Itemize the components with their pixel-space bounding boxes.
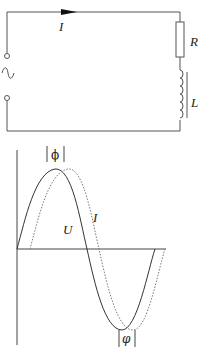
current-label: I: [58, 19, 64, 34]
phase-angle-top-label: ϕ: [51, 148, 59, 162]
current-arrow-icon: [61, 9, 77, 15]
top-wire: [7, 12, 180, 53]
phase-angle-bottom-label: φ: [122, 332, 131, 346]
inductor-label: L: [190, 95, 198, 110]
waveform-plot: [17, 146, 166, 347]
bottom-wire: [7, 101, 180, 131]
inductor-icon: [180, 70, 183, 118]
ac-source-icon: [2, 68, 14, 79]
current-wave-label: I: [92, 210, 98, 225]
terminal-bottom-icon: [5, 96, 10, 101]
circuit: [2, 9, 187, 131]
rl-circuit-diagram: I R L ϕ φ U I: [0, 0, 205, 349]
voltage-label: U: [63, 222, 74, 237]
resistor-icon: [176, 22, 184, 57]
resistor-label: R: [189, 34, 198, 49]
terminal-top-icon: [5, 54, 10, 59]
